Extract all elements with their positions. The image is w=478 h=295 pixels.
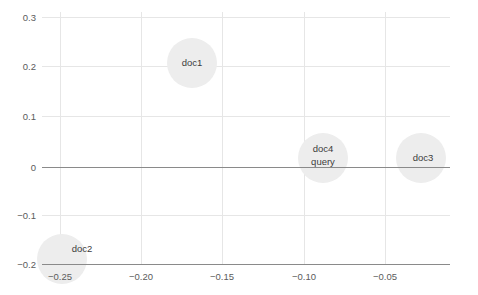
y-tick--0.2: −0.2 (17, 259, 36, 270)
x-tick--0.05: −0.05 (373, 271, 397, 282)
data-label-doc4: doc4 (313, 143, 334, 154)
y-tick-0.3: 0.3 (23, 12, 36, 23)
data-label-doc2: doc2 (72, 243, 93, 254)
y-tick-0.2: 0.2 (23, 61, 36, 72)
plot-canvas: doc1 doc2 doc4 query doc3 0.3 0.2 0.1 0 … (0, 0, 478, 295)
y-tick-0: 0 (31, 162, 36, 173)
horizontal-gridlines (42, 18, 450, 216)
data-point-labels: doc1 doc2 doc4 query doc3 (72, 57, 434, 254)
x-tick--0.15: −0.15 (210, 271, 234, 282)
data-label-doc1: doc1 (182, 57, 203, 68)
data-label-query: query (311, 156, 335, 167)
data-points-layer (37, 38, 446, 284)
x-axis-tick-labels: −0.25 −0.20 −0.15 −0.10 −0.05 (48, 271, 397, 282)
scatter-plot-figure: doc1 doc2 doc4 query doc3 0.3 0.2 0.1 0 … (0, 0, 478, 295)
y-axis-tick-labels: 0.3 0.2 0.1 0 −0.1 −0.2 (17, 12, 36, 270)
data-label-doc3: doc3 (413, 152, 434, 163)
x-tick--0.10: −0.10 (292, 271, 316, 282)
x-tick--0.25: −0.25 (48, 271, 72, 282)
y-tick-0.1: 0.1 (23, 111, 36, 122)
x-tick--0.20: −0.20 (129, 271, 153, 282)
y-tick--0.1: −0.1 (17, 210, 36, 221)
